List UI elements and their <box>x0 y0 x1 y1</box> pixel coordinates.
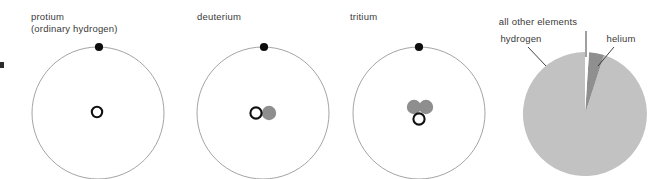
deuterium-neutron <box>262 106 276 120</box>
tritium-electron <box>415 43 423 51</box>
protium-proton <box>92 107 102 117</box>
protium-electron <box>95 43 103 51</box>
deuterium-electron <box>260 43 268 51</box>
pie-label-all-other-elements: all other elements <box>499 16 578 27</box>
atom-protium: protium (ordinary hydrogen) <box>31 11 164 179</box>
isotopes-and-cosmic-abundance-figure: protium (ordinary hydrogen) deuterium tr… <box>0 0 653 179</box>
deuterium-proton <box>250 107 261 118</box>
pie-slice-hydrogen <box>523 52 647 176</box>
pie-label-hydrogen: hydrogen <box>500 33 541 44</box>
cosmic-abundance-pie-chart: all other elements hydrogen helium <box>499 16 647 176</box>
atom-deuterium: deuterium <box>197 11 329 179</box>
atom-protium-label-line1: protium <box>31 11 64 22</box>
pie-label-helium: helium <box>606 33 635 44</box>
atom-tritium-label: tritium <box>350 11 377 22</box>
atom-protium-label-line2: (ordinary hydrogen) <box>31 23 118 34</box>
figure-canvas: protium (ordinary hydrogen) deuterium tr… <box>0 0 653 179</box>
atom-deuterium-label: deuterium <box>197 11 241 22</box>
atom-tritium: tritium <box>350 11 485 179</box>
cropped-edge-glyph <box>0 62 4 68</box>
tritium-neutron-2 <box>419 100 433 114</box>
tritium-proton <box>413 113 424 124</box>
pie-leader-hydrogen <box>528 47 546 66</box>
